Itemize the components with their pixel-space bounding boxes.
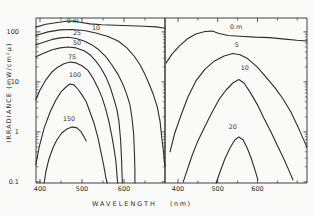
x-tick-label: 600: [118, 185, 130, 193]
curve-label-left-depth-50m: 50: [73, 39, 81, 46]
y-tick-label: 0.1: [9, 178, 19, 186]
curve-left-depth-0m: [36, 21, 165, 28]
curve-label-right-depth-0m: 0 m: [230, 23, 242, 30]
curve-label-left-depth-0m: 0 m: [67, 17, 79, 24]
curve-left-depth-150m: [44, 127, 86, 183]
y-axis-title: IRRADIANCE (mW/cm²μ): [5, 18, 12, 168]
curve-label-left-depth-75m: 75: [68, 53, 76, 60]
curve-label-right-depth-5m: 5: [235, 41, 239, 48]
curve-label-left-depth-100m: 100: [69, 71, 81, 78]
x-tick-label: 400: [172, 185, 184, 193]
x-axis-title: WAVELENGTH: [92, 200, 157, 208]
irradiance-depth-figure: 4005006001001010.10 m1025507510015040050…: [0, 0, 313, 216]
curve-label-left-depth-10m: 10: [92, 24, 100, 31]
curve-label-right-depth-10m: 10: [241, 64, 249, 71]
x-axis-unit-label: (nm): [170, 200, 192, 208]
curve-right-depth-20m: [216, 137, 258, 183]
chart-canvas: 4005006001001010.10 m1025507510015040050…: [0, 0, 313, 216]
y-tick-label: 10: [11, 78, 19, 86]
y-tick-label: 1: [15, 128, 19, 136]
x-tick-label: 600: [251, 185, 263, 193]
x-tick-label: 500: [211, 185, 223, 193]
curve-label-left-depth-25m: 25: [73, 29, 81, 36]
x-tick-label: 500: [76, 185, 88, 193]
curve-right-depth-10m: [183, 80, 293, 182]
curve-label-right-depth-20m: 20: [229, 123, 237, 130]
curve-label-left-depth-150m: 150: [63, 115, 75, 122]
x-tick-label: 400: [34, 185, 46, 193]
curve-left-depth-10m: [36, 30, 165, 166]
